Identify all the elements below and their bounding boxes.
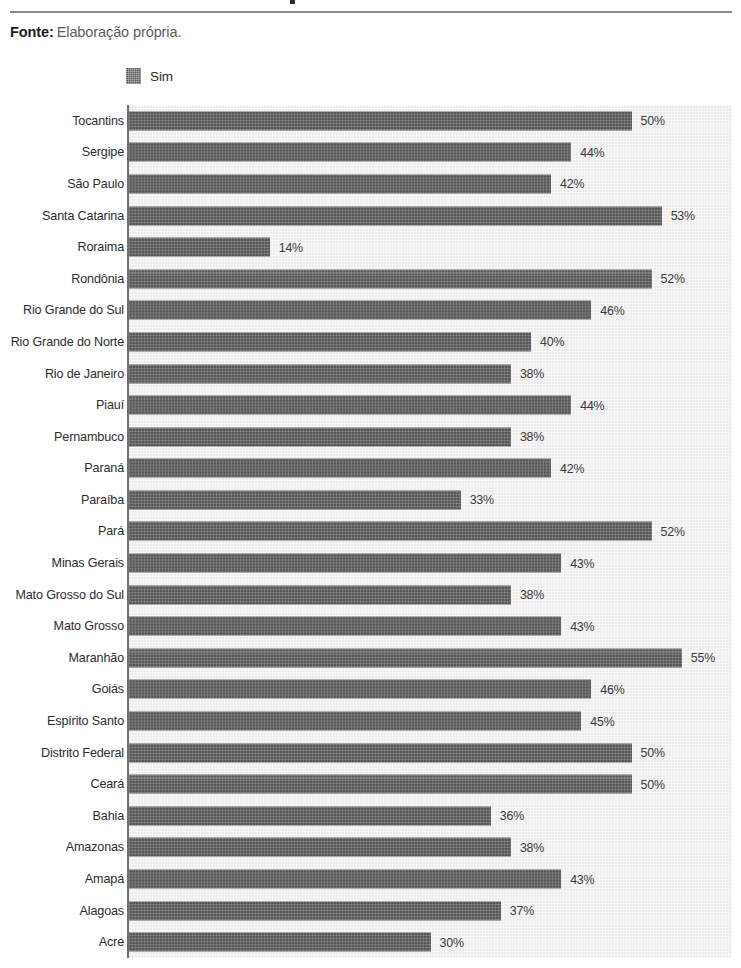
bar-fill (129, 585, 511, 604)
bar-track: 40% (129, 332, 564, 351)
bar-category-label: Roraima (77, 240, 124, 254)
bar-track: 43% (129, 617, 594, 636)
bar-row: Alagoas37% (0, 895, 741, 927)
bar-value-label: 38% (520, 430, 544, 444)
bar-value-label: 38% (520, 367, 544, 381)
bar-row: Pará52% (0, 516, 741, 548)
bar-fill (129, 712, 581, 731)
bar-fill (129, 838, 511, 857)
bar-value-label: 30% (440, 935, 464, 949)
bar-track: 30% (129, 933, 464, 952)
bar-row: São Paulo42% (0, 168, 741, 200)
bar-value-label: 43% (570, 872, 594, 886)
bar-value-label: 44% (580, 398, 604, 412)
bar-fill (129, 806, 491, 825)
bar-value-label: 52% (661, 272, 685, 286)
bar-value-label: 42% (560, 461, 584, 475)
bar-track: 55% (129, 648, 715, 667)
bar-row: Goiás46% (0, 674, 741, 706)
bar-category-label: Paraná (84, 461, 124, 475)
bar-category-label: Pará (98, 524, 124, 538)
bar-value-label: 36% (500, 809, 524, 823)
bar-row: Rio Grande do Sul46% (0, 295, 741, 327)
bar-row: Mato Grosso do Sul38% (0, 579, 741, 611)
bar-value-label: 14% (279, 240, 303, 254)
bar-value-label: 50% (641, 114, 665, 128)
bar-row: Rondônia52% (0, 263, 741, 295)
bar-row: Amapá43% (0, 863, 741, 895)
bar-category-label: Minas Gerais (52, 556, 124, 570)
bar-fill (129, 143, 571, 162)
bar-category-label: Bahia (93, 809, 124, 823)
bar-row: Pernambuco38% (0, 421, 741, 453)
bar-track: 38% (129, 364, 544, 383)
bar-category-label: Paraíba (81, 493, 124, 507)
bar-row: Paraíba33% (0, 484, 741, 516)
bar-value-label: 46% (600, 303, 624, 317)
bar-track: 50% (129, 111, 665, 130)
bar-track: 52% (129, 522, 685, 541)
bar-row: Santa Catarina53% (0, 200, 741, 232)
bar-category-label: Rio Grande do Norte (11, 335, 124, 349)
bar-value-label: 38% (520, 588, 544, 602)
title-remnant (290, 0, 295, 4)
bar-category-label: Mato Grosso do Sul (15, 588, 124, 602)
bar-fill (129, 332, 531, 351)
bar-row: Bahia36% (0, 800, 741, 832)
bar-value-label: 40% (540, 335, 564, 349)
bar-fill (129, 775, 632, 794)
source-label: Fonte: (10, 24, 54, 40)
bar-fill (129, 648, 682, 667)
bar-track: 37% (129, 901, 534, 920)
bar-value-label: 37% (510, 904, 534, 918)
bar-fill (129, 364, 511, 383)
bar-category-label: Rondônia (71, 272, 124, 286)
bar-category-label: Tocantins (72, 114, 124, 128)
bar-category-label: Pernambuco (54, 430, 124, 444)
bar-fill (129, 870, 561, 889)
bar-track: 42% (129, 174, 584, 193)
source-line: Fonte:Elaboração própria. (10, 24, 181, 40)
bar-value-label: 43% (570, 556, 594, 570)
bar-category-label: Distrito Federal (41, 746, 124, 760)
bar-track: 42% (129, 459, 584, 478)
bar-fill (129, 301, 591, 320)
bar-fill (129, 680, 591, 699)
header-divider (10, 11, 732, 13)
bar-fill (129, 206, 662, 225)
bar-row: Tocantins50% (0, 105, 741, 137)
bar-category-label: Espírito Santo (47, 714, 124, 728)
bar-category-label: Santa Catarina (42, 209, 124, 223)
bar-track: 38% (129, 585, 544, 604)
bar-value-label: 50% (641, 746, 665, 760)
bar-category-label: Alagoas (80, 904, 124, 918)
bar-fill (129, 554, 561, 573)
bar-value-label: 55% (691, 651, 715, 665)
bar-row: Acre30% (0, 926, 741, 958)
bar-category-label: Ceará (90, 777, 124, 791)
bar-track: 44% (129, 396, 604, 415)
bar-track: 53% (129, 206, 695, 225)
bar-value-label: 38% (520, 840, 544, 854)
bar-category-label: Amapá (85, 872, 124, 886)
bar-row: Amazonas38% (0, 832, 741, 864)
bar-row: Paraná42% (0, 453, 741, 485)
bar-value-label: 45% (590, 714, 614, 728)
bar-fill (129, 238, 270, 257)
bar-row: Rio Grande do Norte40% (0, 326, 741, 358)
bar-track: 38% (129, 838, 544, 857)
bar-row: Maranhão55% (0, 642, 741, 674)
bar-fill (129, 174, 551, 193)
bar-value-label: 50% (641, 777, 665, 791)
bar-category-label: Goiás (92, 682, 124, 696)
bar-row: Espírito Santo45% (0, 705, 741, 737)
bar-category-label: São Paulo (67, 177, 124, 191)
bar-track: 50% (129, 743, 665, 762)
bar-fill (129, 617, 561, 636)
bar-fill (129, 522, 652, 541)
legend-swatch-sim (126, 68, 141, 84)
bar-track: 38% (129, 427, 544, 446)
bar-value-label: 46% (600, 682, 624, 696)
bar-fill (129, 901, 501, 920)
bar-value-label: 42% (560, 177, 584, 191)
